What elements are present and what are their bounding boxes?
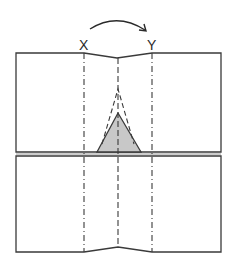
label-x: X	[79, 37, 89, 53]
origami-diagram: X Y	[0, 0, 234, 267]
label-y: Y	[147, 37, 157, 53]
curved-arrow-icon	[90, 21, 146, 31]
